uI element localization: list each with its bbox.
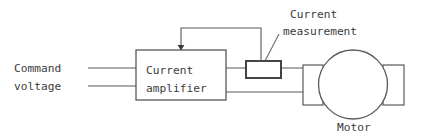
command-voltage-label-line1: Command <box>14 62 61 75</box>
measurement-leader-line <box>266 34 280 60</box>
command-voltage-label-line2: voltage <box>14 80 61 93</box>
current-measurement-sensor-block <box>246 61 281 78</box>
current-amplifier-label-line2: amplifier <box>146 82 207 95</box>
motor-body <box>319 50 388 119</box>
diagram-canvas: Command voltage Current amplifier Curren… <box>0 0 422 139</box>
motor-label: Motor <box>337 121 371 134</box>
block-diagram-figure: Command voltage Current amplifier Curren… <box>0 0 422 139</box>
current-measurement-label-line1: Current <box>290 8 337 21</box>
current-measurement-label-line2: measurement <box>283 25 357 38</box>
current-amplifier-label-line1: Current <box>146 64 193 77</box>
